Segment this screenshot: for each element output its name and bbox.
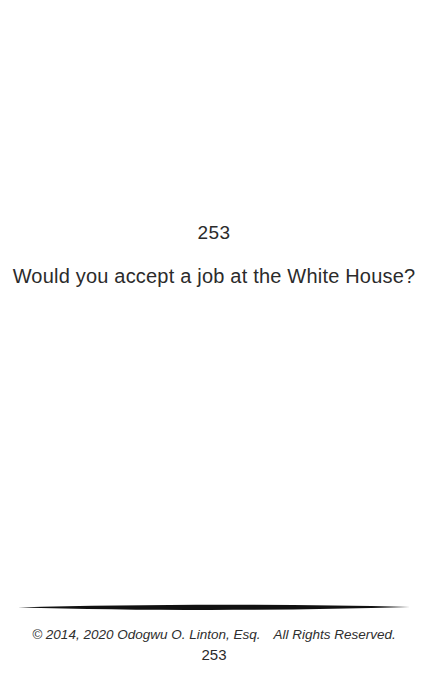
question-number: 253 [0,221,428,245]
question-text: Would you accept a job at the White Hous… [0,263,428,290]
book-page: 253 Would you accept a job at the White … [0,0,428,691]
copyright-line: © 2014, 2020 Odogwu O. Linton, Esq.All R… [0,626,428,643]
footer-page-number: 253 [0,645,428,664]
rights-reserved-text: All Rights Reserved. [274,626,396,643]
tapered-divider-rule [18,603,410,612]
copyright-text: © 2014, 2020 Odogwu O. Linton, Esq. [32,626,260,643]
